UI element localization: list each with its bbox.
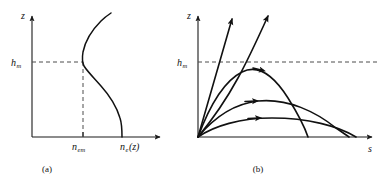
panel-a-hm-label: hm <box>11 57 22 69</box>
panel-b-caption: (b) <box>253 164 264 174</box>
panel-b-ray-grazing <box>198 118 356 137</box>
panel-b-ray4-direction-arrow <box>245 101 256 102</box>
figure-root: z hm nem ne(z) (a) <box>0 0 389 179</box>
panel-a-caption: (a) <box>42 164 52 174</box>
panel-b: z hm s (b) <box>177 10 380 174</box>
panel-a: z hm nem ne(z) (a) <box>11 10 160 174</box>
panel-a-x-axis-label: ne(z) <box>120 141 140 153</box>
panel-b-s-axis-label: s <box>368 143 372 154</box>
physics-figure: z hm nem ne(z) (a) <box>0 0 389 179</box>
panel-a-z-label: z <box>20 10 25 21</box>
panel-a-density-curve <box>82 13 122 137</box>
panel-b-z-label: z <box>186 10 191 21</box>
panel-a-nem-label: nem <box>72 141 85 153</box>
panel-b-ray5-direction-arrow <box>248 118 259 119</box>
panel-b-hm-label: hm <box>177 57 188 69</box>
